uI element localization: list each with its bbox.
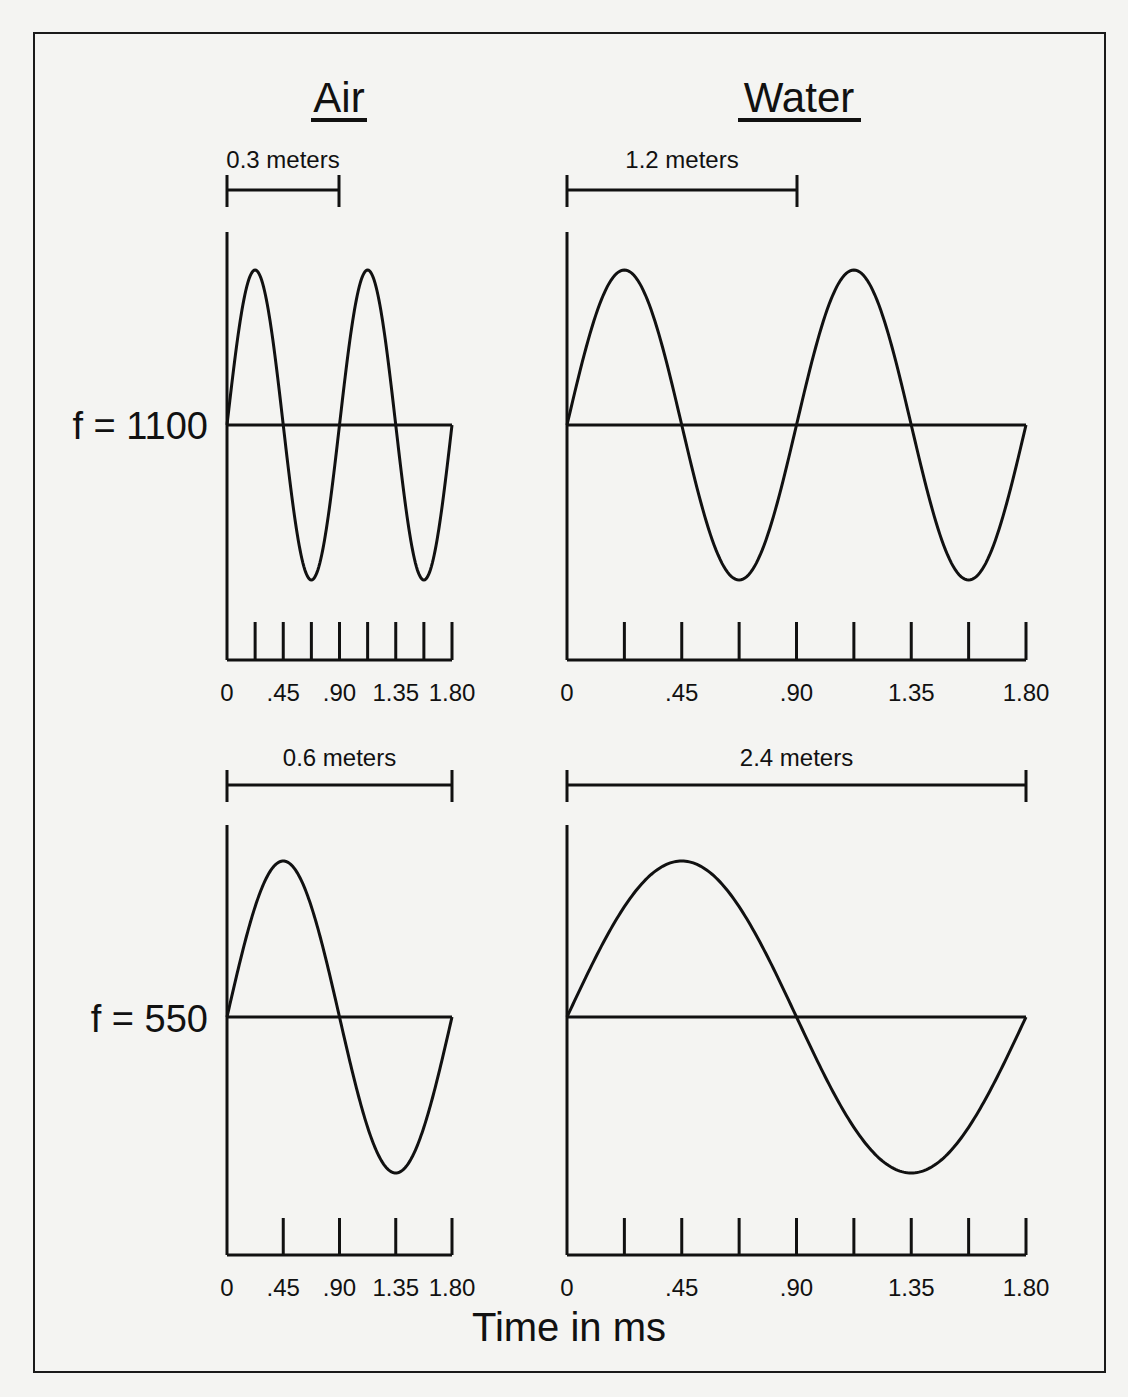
panel-water-f1100: 1.2 meters0.45.901.351.80 (560, 146, 1049, 706)
tick-label: .45 (267, 679, 300, 706)
tick-label: 1.35 (372, 1274, 419, 1301)
row-label-1100: f = 1100 (72, 405, 208, 447)
panel-water-f550: 2.4 meters0.45.901.351.80 (560, 744, 1049, 1301)
tick-label: 0 (560, 679, 573, 706)
wave-panels: 0.3 meters0.45.901.351.801.2 meters0.45.… (220, 146, 1049, 1301)
wavelength-label: 0.6 meters (283, 744, 396, 771)
panel-air-f550: 0.6 meters0.45.901.351.80 (220, 744, 475, 1301)
panel-air-f1100: 0.3 meters0.45.901.351.80 (220, 146, 475, 706)
tick-label: .90 (323, 1274, 356, 1301)
wavelength-label: 1.2 meters (625, 146, 738, 173)
sound-wave-figure: Air Water f = 1100 f = 550 0.3 meters0.4… (0, 0, 1128, 1397)
tick-label: 1.80 (1003, 679, 1050, 706)
tick-label: 0 (220, 1274, 233, 1301)
tick-label: 1.80 (429, 1274, 476, 1301)
tick-label: 1.80 (429, 679, 476, 706)
row-label-550: f = 550 (91, 998, 208, 1040)
wavelength-label: 0.3 meters (226, 146, 339, 173)
tick-label: 0 (220, 679, 233, 706)
tick-label: 1.35 (888, 679, 935, 706)
tick-label: .45 (665, 1274, 698, 1301)
title-air: Air (313, 74, 364, 121)
tick-label: 1.80 (1003, 1274, 1050, 1301)
tick-label: .45 (665, 679, 698, 706)
tick-label: 1.35 (888, 1274, 935, 1301)
x-axis-label: Time in ms (472, 1305, 666, 1349)
tick-label: .90 (780, 1274, 813, 1301)
tick-label: .90 (323, 679, 356, 706)
tick-label: .45 (267, 1274, 300, 1301)
title-water: Water (744, 74, 854, 121)
wavelength-label: 2.4 meters (740, 744, 853, 771)
tick-label: .90 (780, 679, 813, 706)
tick-label: 1.35 (372, 679, 419, 706)
tick-label: 0 (560, 1274, 573, 1301)
